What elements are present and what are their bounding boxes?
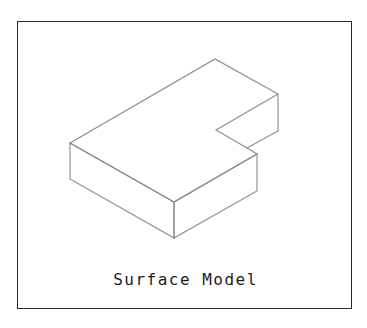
- notch-face: [247, 94, 278, 148]
- left-front-face: [70, 143, 174, 238]
- right-front-face: [174, 154, 257, 238]
- top-face: [70, 59, 278, 202]
- figure-caption: Surface Model: [0, 270, 367, 289]
